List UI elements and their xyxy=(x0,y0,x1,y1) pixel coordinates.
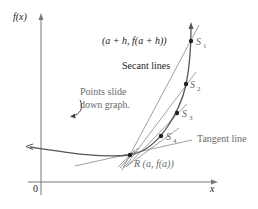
points-slide-label-2: down graph. xyxy=(80,99,130,110)
svg-text:S: S xyxy=(196,36,201,47)
svg-text:2: 2 xyxy=(197,85,201,93)
curve-top-arrow-icon xyxy=(189,22,194,29)
svg-text:4: 4 xyxy=(173,137,177,145)
points-slide-label-1: Points slide xyxy=(80,86,127,97)
x-axis-label: x xyxy=(209,183,215,194)
point-S4 xyxy=(159,134,163,138)
point-S3 xyxy=(175,111,179,115)
point-R xyxy=(128,153,132,157)
secant-lines-label: Secant lines xyxy=(122,60,170,71)
point-S1 xyxy=(189,39,193,43)
S2-label: S 2 xyxy=(190,79,201,93)
svg-text:1: 1 xyxy=(203,42,207,50)
S1-label: S 1 xyxy=(196,36,207,50)
R-point-label: R (a, f(a)) xyxy=(133,158,174,170)
svg-text:3: 3 xyxy=(189,114,193,122)
point-S2 xyxy=(184,82,188,86)
S3-label: S 3 xyxy=(182,108,193,122)
secant-point-label: (a + h, f(a + h)) xyxy=(102,35,167,47)
y-axis-arrow-icon xyxy=(39,13,44,20)
y-axis xyxy=(39,13,44,195)
secant-tangent-diagram: f(x) x 0 (a + h, f(a + h)) Secant lines … xyxy=(0,0,258,209)
origin-label: 0 xyxy=(33,183,38,194)
secant-lines xyxy=(118,25,199,170)
svg-text:S: S xyxy=(190,79,195,90)
slide-arrow-head-icon xyxy=(70,114,76,119)
svg-text:S: S xyxy=(182,108,187,119)
svg-text:S: S xyxy=(166,131,171,142)
tangent-line-label: Tangent line xyxy=(197,133,247,144)
y-axis-label: f(x) xyxy=(13,11,28,23)
x-axis xyxy=(28,180,218,185)
